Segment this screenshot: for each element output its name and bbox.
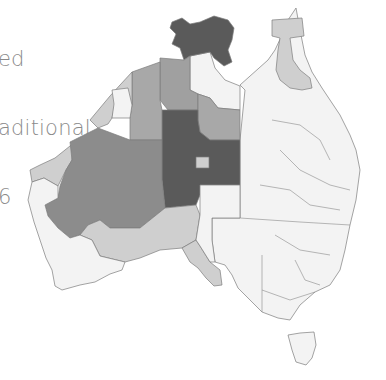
- region-alice-springs: [196, 157, 209, 168]
- region-derby-west-kimberley: [112, 88, 132, 118]
- australia-choropleth-map: [0, 0, 386, 380]
- region-tasmania: [288, 332, 316, 365]
- region-western-desert: [45, 128, 165, 238]
- region-east-kimberley: [130, 62, 162, 140]
